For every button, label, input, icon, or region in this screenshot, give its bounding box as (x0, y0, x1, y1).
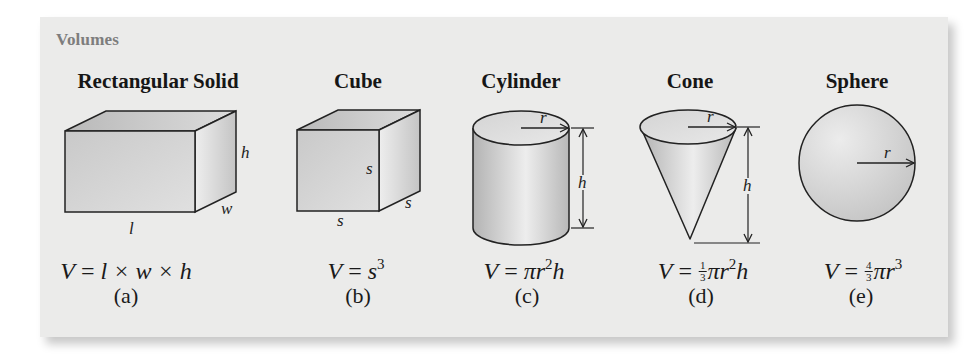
formula-sphere: V = 43πr3 (824, 258, 903, 285)
shape-figures: h w l s s s r h r h r (0, 0, 977, 361)
formula-cone: V = 13πr2h (658, 258, 749, 285)
dim-r: r (707, 107, 714, 126)
label-a: (a) (114, 283, 138, 309)
label-c: (c) (515, 283, 539, 309)
formula-cube: V = s3 (327, 258, 384, 285)
dim-h: h (241, 143, 250, 162)
dim-s-height: s (366, 159, 373, 178)
sphere-figure: r (799, 105, 915, 221)
formula-rectangular-solid: V = l × w × h (60, 258, 191, 285)
cone-figure: r h (640, 107, 760, 243)
formula-cylinder: V = πr2h (483, 258, 564, 285)
dim-l: l (129, 219, 134, 238)
dim-h: h (743, 176, 752, 195)
cylinder-figure: r h (473, 108, 594, 245)
fraction-one-third: 13 (699, 260, 707, 283)
rectangular-solid-figure: h w l (65, 111, 250, 238)
label-b: (b) (345, 283, 371, 309)
fraction-four-thirds: 43 (865, 260, 873, 283)
cube-figure: s s s (297, 110, 420, 230)
label-e: (e) (849, 283, 873, 309)
dim-s-width: s (337, 211, 344, 230)
dim-h: h (578, 173, 587, 192)
dim-r: r (540, 108, 547, 127)
dim-r: r (884, 143, 891, 162)
label-d: (d) (688, 283, 714, 309)
dim-s-depth: s (405, 193, 412, 212)
dim-w: w (221, 199, 233, 218)
